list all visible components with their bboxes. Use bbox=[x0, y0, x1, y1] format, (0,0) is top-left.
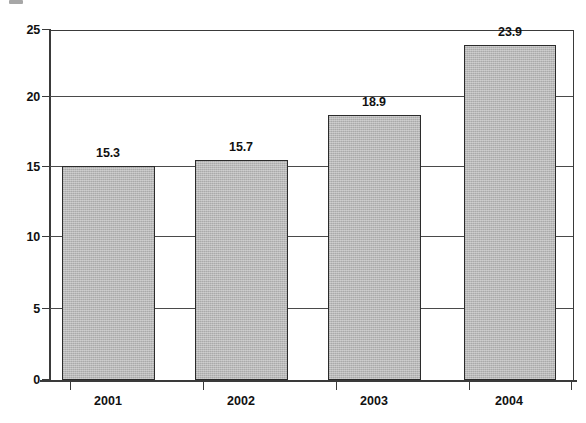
bar-2003[interactable] bbox=[328, 115, 421, 380]
y-axis-line bbox=[49, 29, 51, 381]
y-tick-label-15: 15 bbox=[8, 160, 40, 174]
x-tick-2001 bbox=[70, 381, 71, 390]
y-tick-15 bbox=[42, 166, 50, 167]
y-tick-5 bbox=[42, 308, 50, 309]
x-tick-label-2004: 2004 bbox=[469, 394, 549, 408]
y-tick-20 bbox=[42, 96, 50, 97]
y-axis-labels: 25 20 15 10 5 0 bbox=[0, 0, 40, 423]
bar-2004[interactable] bbox=[464, 45, 556, 380]
bar-2001[interactable] bbox=[62, 166, 155, 380]
y-tick-10 bbox=[42, 236, 50, 237]
x-tick-label-2001: 2001 bbox=[68, 394, 148, 408]
y-tick-label-25: 25 bbox=[8, 23, 40, 37]
x-tick-label-2002: 2002 bbox=[201, 394, 281, 408]
y-tick-label-5: 5 bbox=[8, 302, 40, 316]
y-tick-0 bbox=[42, 379, 50, 380]
bar-2002[interactable] bbox=[195, 160, 288, 380]
x-tick-2004 bbox=[469, 381, 470, 390]
x-tick-end bbox=[571, 381, 572, 390]
y-tick-label-20: 20 bbox=[8, 90, 40, 104]
bar-value-2002: 15.7 bbox=[186, 140, 296, 154]
x-tick-2002 bbox=[203, 381, 204, 390]
bar-value-2001: 15.3 bbox=[53, 146, 163, 160]
x-axis-line bbox=[40, 380, 577, 382]
x-tick-label-2003: 2003 bbox=[334, 394, 414, 408]
bar-value-2004: 23.9 bbox=[455, 25, 565, 39]
y-tick-label-0: 0 bbox=[8, 373, 40, 387]
bar-chart-figure: 25 20 15 10 5 0 15.3 15.7 18.9 23.9 2001… bbox=[0, 0, 586, 423]
y-tick-label-10: 10 bbox=[8, 230, 40, 244]
y-tick-25 bbox=[42, 29, 50, 30]
bar-value-2003: 18.9 bbox=[319, 95, 429, 109]
x-tick-2003 bbox=[336, 381, 337, 390]
